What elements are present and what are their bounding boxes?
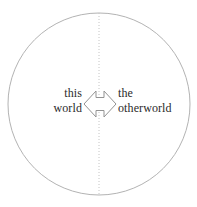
label-the-otherworld-line1: the xyxy=(118,86,197,101)
label-the-otherworld-line2: otherworld xyxy=(118,101,197,116)
diagram-canvas: this world the otherworld xyxy=(0,0,197,207)
label-this-world-line1: this xyxy=(0,86,82,101)
label-the-otherworld: the otherworld xyxy=(118,86,197,115)
bidirectional-arrow-icon xyxy=(84,91,116,117)
label-this-world-line2: world xyxy=(0,101,82,116)
label-this-world: this world xyxy=(0,86,82,115)
